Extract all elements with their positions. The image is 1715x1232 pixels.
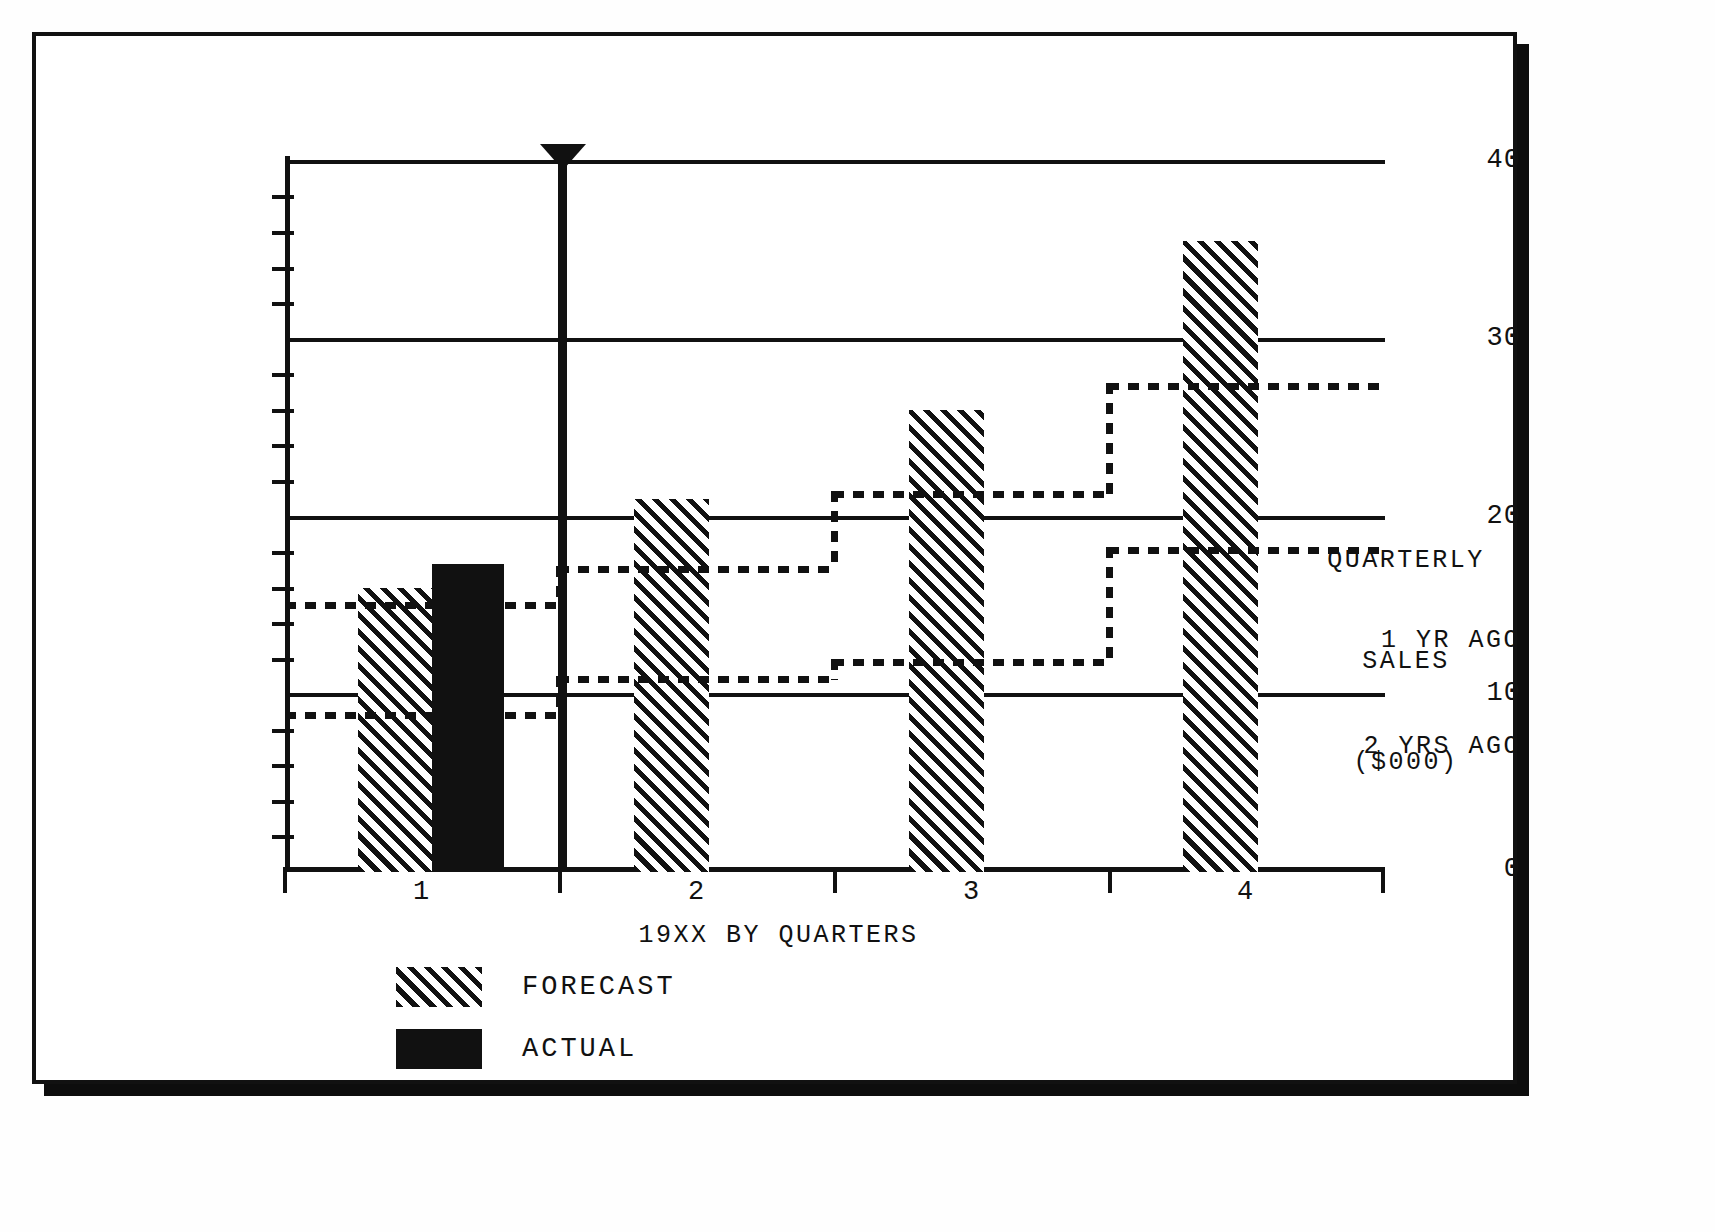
x-tick-label-3: 3	[963, 877, 979, 907]
ref-step-2yrs-riser-3	[1106, 547, 1113, 663]
y-axis-title: QUARTERLY SALES ($000)	[1291, 476, 1521, 847]
y-tick-24	[272, 444, 294, 448]
y-tick-34	[272, 267, 294, 271]
ref-step-1yr-q2	[558, 566, 833, 573]
ref-step-1yr-q4	[1108, 383, 1385, 390]
y-tick-14	[272, 622, 294, 626]
y-tick-12	[272, 658, 294, 662]
y-tick-8	[272, 729, 294, 733]
x-tick-boundary-4	[1381, 867, 1385, 893]
y-tick-label-40: 40	[1299, 145, 1521, 175]
x-tick-label-1: 1	[413, 877, 429, 907]
page-border: 40 30 20 10 0 QUARTERLY SALES ($000) 1 Y…	[32, 32, 1517, 1084]
x-tick-label-2: 2	[688, 877, 704, 907]
ref-step-1yr-q1	[285, 602, 558, 609]
x-tick-boundary-3	[1108, 867, 1112, 893]
chart-legend: FORECAST ACTUAL	[396, 961, 676, 1085]
ref-step-2yrs-q4	[1108, 547, 1385, 554]
ref-step-1yr-riser-3	[1106, 383, 1113, 495]
legend-label-forecast: FORECAST	[522, 972, 676, 1002]
ref-step-2yrs-q2	[558, 676, 833, 683]
ref-label-1-yr-ago: 1 YR AGO	[1291, 626, 1521, 655]
y-tick-36	[272, 231, 294, 235]
today-marker-line	[558, 160, 567, 872]
legend-item-actual: ACTUAL	[396, 1023, 676, 1075]
y-tick-6	[272, 764, 294, 768]
legend-swatch-forecast-icon	[396, 967, 482, 1007]
y-tick-16	[272, 587, 294, 591]
bar-forecast-q3	[909, 410, 984, 872]
y-tick-18	[272, 551, 294, 555]
y-tick-2	[272, 835, 294, 839]
y-tick-4	[272, 800, 294, 804]
x-axis-title: 19XX BY QUARTERS	[36, 921, 1521, 950]
x-tick-boundary-0	[283, 867, 287, 893]
y-tick-label-0: 0	[1299, 854, 1521, 884]
ref-step-1yr-q3	[833, 491, 1108, 498]
y-axis-line	[285, 156, 290, 871]
bar-forecast-q1	[358, 588, 432, 872]
legend-swatch-actual-icon	[396, 1029, 482, 1069]
ref-step-2yrs-q1	[285, 712, 558, 719]
y-tick-38	[272, 195, 294, 199]
bar-forecast-q2	[634, 499, 709, 872]
bar-forecast-q4	[1183, 241, 1258, 872]
ref-label-2-yrs-ago: 2 YRS AGO	[1291, 732, 1521, 761]
chart-plot-area: 40 30 20 10 0 QUARTERLY SALES ($000) 1 Y…	[36, 36, 1521, 1088]
legend-label-actual: ACTUAL	[522, 1034, 637, 1064]
x-tick-label-4: 4	[1237, 877, 1253, 907]
y-tick-22	[272, 480, 294, 484]
ref-step-1yr-riser-2	[831, 491, 838, 570]
y-tick-32	[272, 302, 294, 306]
ref-step-2yrs-q3	[833, 659, 1108, 666]
today-marker-arrow-icon	[540, 144, 586, 170]
scanned-page: 40 30 20 10 0 QUARTERLY SALES ($000) 1 Y…	[0, 0, 1715, 1232]
legend-item-forecast: FORECAST	[396, 961, 676, 1013]
y-tick-28	[272, 373, 294, 377]
x-tick-boundary-2	[833, 867, 837, 893]
gridline-40	[285, 160, 1385, 164]
y-tick-26	[272, 409, 294, 413]
y-tick-label-30: 30	[1299, 323, 1521, 353]
